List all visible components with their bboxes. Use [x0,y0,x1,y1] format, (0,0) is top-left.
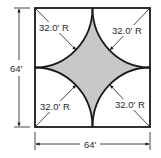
radius-label-bottom-right: 32.0' R [115,99,145,110]
width-label: 64' [84,139,97,150]
height-label: 64' [10,63,23,74]
radius-label-top-left: 32.0' R [39,22,69,33]
radius-label-bottom-left: 32.0' R [40,101,70,112]
diagram-canvas: 32.0' R 32.0' R 32.0' R 32.0' R 64' 64' [0,0,161,158]
radius-label-top-right: 32.0' R [112,25,142,36]
